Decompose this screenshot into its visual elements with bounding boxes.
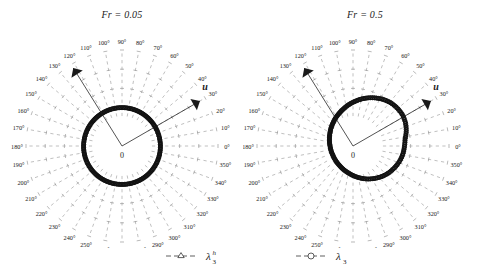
angle-label: 150° [256, 90, 268, 97]
angle-label: 50° [416, 62, 425, 69]
radial-tick [82, 212, 85, 214]
radial-tick [72, 228, 75, 230]
radial-tick [258, 161, 259, 165]
radial-tick [178, 154, 179, 158]
angle-label: 150° [25, 90, 37, 97]
panel-fr-05: Fr = 0.5 0°10°20°30°40°50°60°70°80°90°10… [243, 0, 487, 248]
origin-label-left: 0 [120, 151, 124, 160]
radial-tick [54, 183, 56, 186]
grid-spoke [258, 129, 323, 140]
radial-tick [285, 106, 287, 109]
radial-tick [130, 202, 134, 203]
radial-tick [443, 177, 444, 181]
radial-tick [364, 70, 368, 71]
angle-label: 350° [451, 161, 463, 168]
radial-tick [425, 206, 428, 209]
angle-label: 70° [154, 44, 163, 51]
angle-label: 210° [256, 195, 268, 202]
radial-tick [149, 195, 152, 197]
radial-tick [133, 221, 137, 222]
angle-label: 310° [415, 223, 427, 230]
radial-tick [425, 83, 428, 86]
radial-tick [194, 206, 197, 209]
radial-tick [296, 154, 297, 158]
radial-tick [59, 218, 62, 221]
radial-tick [428, 157, 429, 161]
angle-label: 50° [185, 62, 194, 69]
flow-arrow-label-right: u [433, 81, 439, 92]
legend-sup-1: h [213, 249, 217, 257]
grid-spoke [383, 129, 448, 140]
radial-tick [409, 134, 410, 138]
radial-tick [399, 62, 402, 64]
polar-figure: Fr = 0.05 0°10°20°30°40°50°60°70°80°90°1… [0, 0, 487, 273]
angle-label: 190° [13, 161, 25, 168]
radial-tick [290, 71, 293, 74]
angle-label: 0° [455, 143, 461, 150]
angle-label: 300° [400, 234, 412, 241]
radial-tick [322, 195, 325, 197]
legend-entry-lambda3: λ 3 [296, 250, 347, 266]
angle-label: 230° [49, 223, 61, 230]
radial-tick [334, 51, 338, 52]
legend-sub-1: 3 [213, 258, 217, 266]
radial-tick [361, 89, 365, 90]
radial-tick [419, 183, 421, 186]
legend-entry-lambda3h: λ 3 h [166, 249, 217, 267]
radial-tick [59, 71, 62, 74]
radial-tick [258, 127, 259, 131]
grid-spoke [279, 165, 330, 207]
radial-tick [38, 96, 40, 99]
radial-tick [262, 111, 263, 115]
angle-label: 60° [401, 52, 410, 59]
panel-fr-005: Fr = 0.05 0°10°20°30°40°50°60°70°80°90°1… [0, 0, 244, 248]
radial-tick [303, 228, 306, 230]
angle-label: 320° [428, 210, 440, 217]
radial-tick [153, 55, 157, 56]
radial-tick [159, 212, 162, 214]
radial-tick [159, 78, 162, 80]
angle-label: 120° [295, 52, 307, 59]
grid-spoke [291, 72, 333, 123]
radial-tick [338, 221, 342, 222]
radial-tick [197, 157, 198, 161]
angle-label: 110° [311, 44, 323, 51]
direction-arrow-head [71, 68, 82, 78]
radial-tick [91, 95, 94, 97]
angle-label: 160° [17, 107, 29, 114]
radial-tick [277, 157, 278, 161]
radial-tick [278, 206, 281, 209]
radial-tick [380, 195, 383, 197]
radial-tick [71, 173, 73, 176]
radial-tick [334, 240, 338, 241]
direction-arrow-head [421, 99, 431, 110]
angle-label: 140° [267, 75, 279, 82]
angle-label: 120° [64, 52, 76, 59]
radial-tick [46, 157, 47, 161]
angle-label: 60° [170, 52, 179, 59]
angle-label: 180° [243, 143, 254, 150]
radial-tick [107, 221, 111, 222]
radial-tick [178, 134, 179, 138]
radial-tick [413, 218, 416, 221]
angle-label: 30° [440, 90, 449, 97]
grid-spoke [383, 151, 448, 162]
radial-tick [204, 96, 206, 99]
radial-tick [182, 218, 185, 221]
angle-label: 330° [438, 195, 450, 202]
angle-label: 100° [98, 39, 110, 46]
radial-tick [390, 78, 393, 80]
grid-spoke [258, 151, 323, 162]
radial-tick [171, 173, 173, 176]
radial-tick [47, 83, 50, 86]
radial-tick [277, 131, 278, 135]
polar-plot-left: 0°10°20°30°40°50°60°70°80°90°100°110°120… [0, 0, 244, 248]
grid-spoke [376, 165, 427, 207]
angle-label: 110° [80, 44, 92, 51]
angle-label: 180° [11, 143, 23, 150]
angle-label: 80° [367, 39, 376, 46]
angle-label: 10° [221, 124, 230, 131]
radial-tick [278, 83, 281, 86]
radial-tick [435, 192, 437, 195]
radial-tick [204, 192, 206, 195]
